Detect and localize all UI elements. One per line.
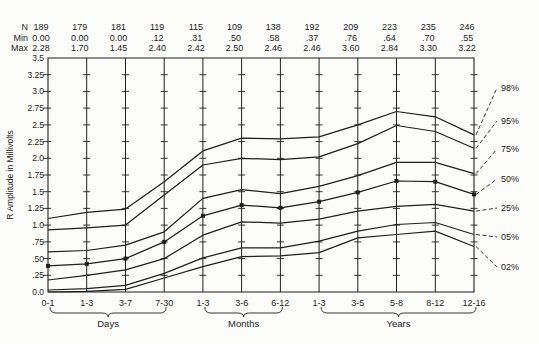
percentile-label: 05% (501, 232, 519, 242)
y-tick-label: 1.75 (27, 170, 44, 180)
stat-value: 138 (266, 22, 281, 32)
stat-value: 1.45 (110, 43, 128, 53)
percentile-label: 25% (501, 203, 519, 213)
y-tick-label: 1.25 (27, 203, 44, 213)
y-tick-label: 3.5 (32, 53, 44, 63)
stat-value: 2.46 (303, 43, 321, 53)
percentile-label: 75% (501, 144, 519, 154)
stat-value: 2.42 (187, 43, 205, 53)
x-tick-label: 12-16 (462, 298, 485, 308)
stat-value: .76 (345, 33, 358, 43)
x-tick-label: 1-3 (313, 298, 326, 308)
median-marker (85, 262, 89, 266)
x-tick-label: 5-8 (390, 298, 403, 308)
stat-value: .70 (422, 33, 435, 43)
stat-value: .31 (190, 33, 203, 43)
percentile-curve-25 (48, 204, 474, 280)
column-gridlines (87, 58, 436, 292)
group-brace (321, 307, 476, 317)
y-tick-label: .50 (32, 254, 44, 264)
percentile-chart-page: N189179181119115109138192209223235246Min… (0, 0, 539, 344)
x-tick-label: 1-3 (80, 298, 93, 308)
percentile-leader-line (476, 179, 497, 194)
x-tick-label: 7-30 (155, 298, 173, 308)
stat-value: .37 (306, 33, 319, 43)
stat-row-label: N (22, 22, 29, 32)
stat-row-label: Max (11, 43, 29, 53)
stat-value: 179 (72, 22, 87, 32)
stat-value: 109 (227, 22, 242, 32)
percentile-label: 95% (501, 116, 519, 126)
stat-value: 2.40 (148, 43, 166, 53)
stat-value: 2.84 (381, 43, 399, 53)
group-label: Months (228, 318, 259, 329)
percentile-curve-75 (48, 162, 474, 252)
group-label: Days (97, 318, 119, 329)
median-marker (46, 264, 50, 268)
stat-value: 3.60 (342, 43, 360, 53)
percentile-leader-line (476, 149, 497, 174)
y-tick-label: 2.25 (27, 137, 44, 147)
x-tick-label: 3-6 (235, 298, 248, 308)
stat-value: .58 (267, 33, 280, 43)
tick-marks (43, 75, 478, 276)
percentile-leader-line (476, 208, 497, 211)
stat-value: 223 (382, 22, 397, 32)
percentile-label: 02% (501, 262, 519, 272)
percentile-curve-02 (48, 231, 474, 292)
x-tick-label: 8-12 (426, 298, 444, 308)
stat-value: 115 (189, 22, 203, 32)
stat-value: 0.00 (32, 33, 50, 43)
stat-value: 246 (459, 22, 474, 32)
percentile-leader-line (476, 247, 497, 268)
group-brace (50, 307, 166, 317)
percentile-leader-line (476, 121, 497, 148)
stat-row-label: Min (13, 33, 28, 43)
r-amplitude-percentile-chart: N189179181119115109138192209223235246Min… (0, 0, 539, 344)
x-tick-label: 3-5 (351, 298, 364, 308)
y-axis-title: R Amplitude in Millivolts (5, 130, 15, 219)
stat-value: 209 (343, 22, 358, 32)
stat-value: 192 (305, 22, 320, 32)
y-tick-label: 2.75 (27, 103, 44, 113)
stat-value: .50 (228, 33, 241, 43)
stat-value: 189 (33, 22, 48, 32)
y-tick-label: 2.5 (32, 120, 44, 130)
median-marker (162, 240, 166, 244)
median-marker (124, 257, 128, 261)
group-label: Years (387, 318, 411, 329)
stat-value: 119 (150, 22, 164, 32)
stat-value: .55 (461, 33, 474, 43)
y-tick-label: 3.0 (32, 86, 44, 96)
y-tick-label: 2.0 (32, 153, 44, 163)
median-marker (240, 203, 244, 207)
y-tick-label: 3.25 (27, 70, 44, 80)
x-tick-label: 6-12 (271, 298, 289, 308)
percentile-label: 98% (501, 83, 519, 93)
median-marker (395, 179, 399, 183)
stat-value: 2.46 (265, 43, 283, 53)
y-tick-label: 0.0 (32, 287, 44, 297)
percentile-leader-line (476, 88, 497, 135)
median-marker (317, 200, 321, 204)
group-brace (205, 307, 282, 317)
stat-value: 0.00 (71, 33, 89, 43)
percentile-leader-line (476, 235, 497, 238)
median-marker (278, 206, 282, 210)
y-tick-label: .25 (32, 270, 44, 280)
y-tick-label: .75 (32, 237, 44, 247)
median-marker (472, 192, 476, 196)
stat-value: 3.22 (458, 43, 476, 53)
y-tick-label: 1.5 (32, 187, 44, 197)
plot-border (48, 58, 474, 292)
y-tick-label: 1.0 (32, 220, 44, 230)
stat-value: 1.70 (71, 43, 89, 53)
x-tick-label: 3-7 (119, 298, 132, 308)
percentile-label: 50% (501, 174, 519, 184)
stat-value: 235 (421, 22, 436, 32)
stat-value: 2.50 (226, 43, 244, 53)
x-tick-label: 0-1 (41, 298, 54, 308)
median-marker (201, 214, 205, 218)
percentile-curve-95 (48, 126, 474, 230)
stat-value: 0.00 (110, 33, 128, 43)
